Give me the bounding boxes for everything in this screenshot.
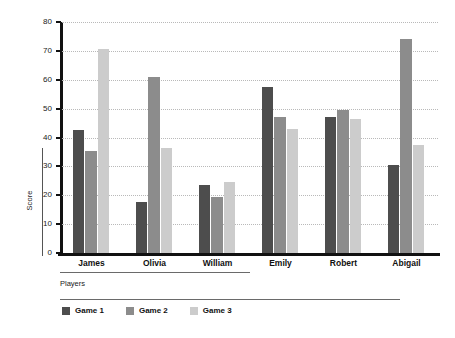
bar [136,202,147,253]
bar [400,39,411,253]
bar [161,148,172,253]
x-axis-title: Players [60,279,85,288]
gridline [62,51,438,52]
y-tick-mark [56,223,61,225]
gridline [62,166,438,167]
legend-item[interactable]: Game 2 [126,306,168,315]
category-label: Robert [312,258,375,268]
legend-item[interactable]: Game 3 [190,306,232,315]
gridline [62,109,438,110]
legend-swatch-icon [126,307,134,315]
bar [350,119,361,253]
y-tick-mark [56,252,61,254]
y-tick-label: 40 [32,133,52,142]
x-axis-spine [58,253,440,256]
plot-area [60,22,438,253]
legend-label: Game 1 [75,306,104,315]
bar [287,129,298,253]
bar [337,110,348,253]
bar [274,117,285,253]
y-tick-label: 80 [32,17,52,26]
bar [148,77,159,253]
bar [325,117,336,253]
y-tick-mark [56,165,61,167]
y-tick-label: 20 [32,190,52,199]
gridline [62,80,438,81]
bar [98,49,109,253]
legend-separator [60,299,400,300]
gridline [62,195,438,196]
category-label: Abigail [375,258,438,268]
category-label: Olivia [123,258,186,268]
y-tick-mark [56,21,61,23]
bar [262,87,273,253]
category-label: James [60,258,123,268]
y-tick-mark [56,50,61,52]
gridline [62,224,438,225]
bar [85,151,96,254]
category-label: William [186,258,249,268]
gridline [62,22,438,23]
bar [73,130,84,253]
bar [388,165,399,253]
y-tick-mark [56,108,61,110]
category-label: Emily [249,258,312,268]
y-tick-label: 0 [32,248,52,257]
legend-item[interactable]: Game 1 [62,306,104,315]
bar-chart: Score 01020304050607080 JamesOliviaWilli… [0,0,455,338]
legend-label: Game 3 [203,306,232,315]
y-tick-label: 30 [32,161,52,170]
x-axis-rule [60,272,250,273]
y-tick-mark [56,79,61,81]
legend-swatch-icon [62,307,70,315]
y-tick-label: 60 [32,75,52,84]
y-tick-label: 70 [32,46,52,55]
bar [224,182,235,253]
bar [413,145,424,253]
gridline [62,138,438,139]
y-tick-mark [56,137,61,139]
y-tick-mark [56,194,61,196]
chart-legend: Game 1Game 2Game 3 [62,306,254,315]
legend-label: Game 2 [139,306,168,315]
bar [211,197,222,253]
legend-swatch-icon [190,307,198,315]
bar [199,185,210,253]
y-tick-label: 50 [32,104,52,113]
y-tick-label: 10 [32,219,52,228]
